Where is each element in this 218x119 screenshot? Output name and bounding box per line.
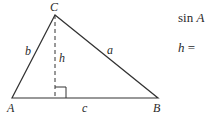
side-label-c: c <box>82 102 87 114</box>
equation-h: h = <box>178 41 195 54</box>
side-label-b: b <box>25 45 31 57</box>
sin-function: sin <box>178 10 193 25</box>
vertex-label-b: B <box>153 102 160 114</box>
right-angle-marker <box>55 87 66 98</box>
altitude-label-h: h <box>59 52 65 64</box>
equation-sin-a: sin A <box>178 11 204 24</box>
h-variable: h <box>178 40 185 55</box>
equals-sign: = <box>188 40 195 55</box>
triangle-abc <box>12 15 158 98</box>
vertex-label-c: C <box>50 1 58 13</box>
vertex-label-a: A <box>7 102 14 114</box>
side-label-a: a <box>107 44 113 56</box>
sin-variable: A <box>196 10 204 25</box>
